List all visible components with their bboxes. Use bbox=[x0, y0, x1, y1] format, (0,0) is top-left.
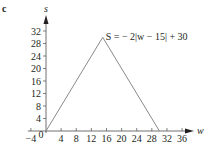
y-tick-label: 32 bbox=[31, 26, 41, 37]
y-tick-label: 4 bbox=[36, 113, 41, 124]
y-tick-label: 24 bbox=[31, 51, 41, 62]
equation-annotation: S = − 2|w − 15| + 30 bbox=[106, 31, 188, 42]
x-tick-label: 0 bbox=[39, 129, 44, 140]
y-tick-label: 28 bbox=[31, 38, 41, 49]
y-axis-title: s bbox=[44, 3, 48, 14]
x-axis-title: w bbox=[197, 125, 204, 136]
y-tick-label: 8 bbox=[36, 101, 41, 112]
chart: −40481216202428323648121620242832 w s S … bbox=[0, 0, 213, 151]
y-tick-label: 16 bbox=[31, 76, 41, 87]
y-axis-arrow-icon bbox=[44, 15, 49, 24]
x-tick-label: 36 bbox=[177, 133, 187, 144]
plot-line bbox=[46, 37, 159, 131]
series-line bbox=[46, 37, 159, 131]
x-tick-label: 8 bbox=[74, 133, 79, 144]
x-tick-label: −4 bbox=[26, 133, 37, 144]
y-tick-label: 12 bbox=[31, 88, 41, 99]
x-tick-label: 24 bbox=[132, 133, 142, 144]
x-tick-label: 12 bbox=[86, 133, 96, 144]
x-tick-label: 28 bbox=[147, 133, 157, 144]
x-tick-label: 4 bbox=[59, 133, 64, 144]
x-tick-label: 20 bbox=[117, 133, 127, 144]
y-tick-label: 20 bbox=[31, 63, 41, 74]
x-tick-label: 16 bbox=[101, 133, 111, 144]
x-tick-label: 32 bbox=[162, 133, 172, 144]
